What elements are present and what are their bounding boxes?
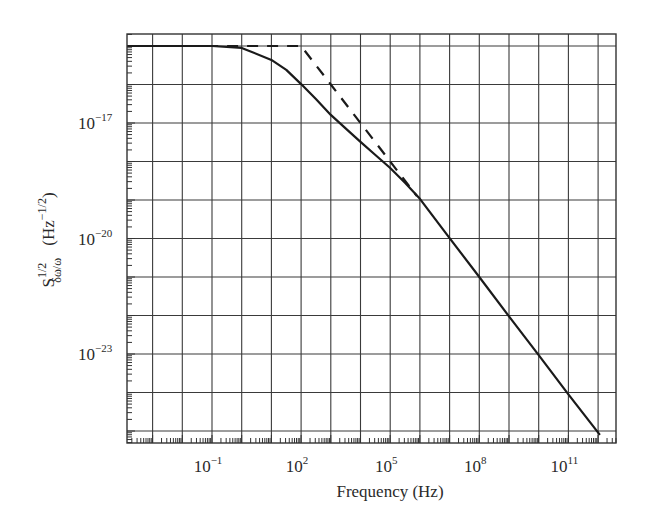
y-tick-label: 10−17	[78, 111, 113, 133]
x-axis-title: Frequency (Hz)	[336, 482, 443, 501]
dashed-curve	[127, 46, 417, 196]
data-series	[127, 46, 600, 435]
y-label-unit-sup: −1/2	[35, 198, 49, 220]
x-tick-label: 102	[286, 454, 309, 476]
svg-text:S1/2δω/ω (Hz−1/2): S1/2δω/ω (Hz−1/2)	[35, 192, 64, 287]
y-label-unit-close: )	[39, 192, 58, 198]
frequency-noise-chart: 10−11021051081011 10−1710−2010−23 Freque…	[0, 0, 645, 519]
x-tick-label: 1011	[551, 454, 579, 476]
y-label-sub: δω/ω	[50, 258, 64, 283]
solid-curve	[127, 46, 600, 435]
y-tick-label: 10−23	[78, 342, 113, 364]
x-tick-label: 105	[375, 454, 398, 476]
y-axis-title: S1/2δω/ω (Hz−1/2)	[35, 192, 64, 287]
x-axis-tick-labels: 10−11021051081011	[194, 454, 579, 476]
x-tick-label: 10−1	[194, 454, 223, 476]
y-label-unit: (Hz	[39, 220, 58, 246]
y-axis-tick-labels: 10−1710−2010−23	[78, 111, 113, 364]
y-tick-label: 10−20	[78, 227, 113, 249]
grid-lines	[127, 34, 616, 443]
x-tick-label: 108	[464, 454, 487, 476]
y-label-sup: 1/2	[35, 263, 49, 278]
